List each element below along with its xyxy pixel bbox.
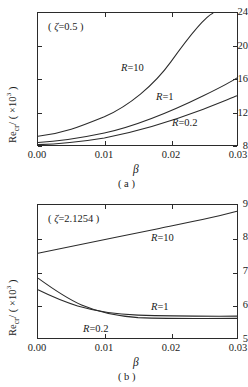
x-axis-title-b: β <box>133 356 139 368</box>
figure-critical-reynolds-vs-beta: Recr/ ( ×103 ) 8 12 16 20 24 0.00 0.01 0… <box>0 0 248 387</box>
x-tick-label-a-002: 0.02 <box>151 150 191 161</box>
curve-label-a-R02: R=0.2 <box>172 117 197 128</box>
y-tick-a-0 <box>38 146 42 147</box>
x-tick-label-a-0: 0.00 <box>17 150 57 161</box>
y-axis-title-tail-b: / ( ×10 <box>7 289 18 318</box>
x-tick-label-b-0: 0.00 <box>17 343 57 354</box>
panel-note-a: ( ζ=0.5 ) <box>48 21 84 32</box>
y-axis-title-tail-a: / ( ×10 <box>7 96 18 125</box>
panel-caption-b: ( b ) <box>118 371 136 382</box>
curve-label-b-R1: R=1 <box>151 301 169 312</box>
panel-caption-a: ( a ) <box>118 178 135 189</box>
curve-group-b <box>38 205 237 338</box>
panel-note-value-a: =0.5 ) <box>58 21 83 32</box>
y-axis-title-sub-a: cr <box>12 125 21 131</box>
y-axis-title-text-b: Re <box>7 324 18 336</box>
curve-label-b-R10: R=10 <box>151 232 174 243</box>
panel-note-value-b: =2.1254 ) <box>58 213 99 224</box>
x-tick-label-b-001: 0.01 <box>84 343 124 354</box>
x-tick-label-a-001: 0.01 <box>84 150 124 161</box>
y-axis-title-b: Recr/ ( ×103 ) <box>5 279 21 336</box>
curve-b-R1 <box>38 290 237 316</box>
curve-a-R02 <box>38 96 237 145</box>
plot-area-a: ( ζ=0.5 ) RR=10=10 R=1 R=0.2 <box>37 12 238 146</box>
y-axis-title-close-b: ) <box>7 279 18 285</box>
y-axis-title-exponent-b: 3 <box>5 286 13 290</box>
x-tick-label-a-003: 0.03 <box>218 150 248 161</box>
y-axis-title-a: Recr/ ( ×103 ) <box>5 86 21 143</box>
y-tick-right-a-0 <box>233 146 237 147</box>
plot-area-b: ( ζ=2.1254 ) R=10 R=1 R=0.2 <box>37 204 238 339</box>
curve-group-a <box>38 13 237 145</box>
y-axis-title-exponent-a: 3 <box>5 93 13 97</box>
curve-label-b-R02: R=0.2 <box>83 323 108 334</box>
y-axis-title-close-a: ) <box>7 86 18 92</box>
x-tick-label-b-002: 0.02 <box>151 343 191 354</box>
curve-label-a-R1: R=1 <box>156 91 174 102</box>
panel-a: Recr/ ( ×103 ) 8 12 16 20 24 0.00 0.01 0… <box>0 0 248 193</box>
x-axis-title-a: β <box>133 163 139 175</box>
panel-note-b: ( ζ=2.1254 ) <box>48 213 99 224</box>
curve-b-R02 <box>38 278 237 318</box>
y-axis-title-text-a: Re <box>7 131 18 143</box>
curve-label-a-R10: RR=10=10 <box>121 62 144 73</box>
curve-a-R1 <box>38 78 237 143</box>
panel-b: Recr/ ( ×103 ) 5 6 7 8 9 0.00 0.01 0.02 … <box>0 193 248 387</box>
y-axis-title-sub-b: cr <box>12 318 21 324</box>
x-tick-label-b-003: 0.03 <box>218 343 248 354</box>
